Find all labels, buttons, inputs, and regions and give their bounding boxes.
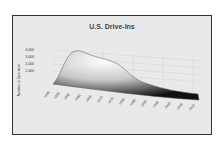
plot-area — [13, 16, 213, 136]
chart-frame: U.S. Drive-Ins Number in Operation 4,000… — [12, 15, 212, 135]
